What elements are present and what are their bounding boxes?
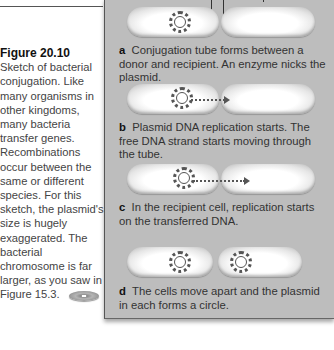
cell-pair xyxy=(127,84,317,114)
plasmid-icon xyxy=(173,167,195,189)
caption-text: Sketch of bacterial conjugation. Like ma… xyxy=(0,61,104,300)
cd-disc-icon[interactable] xyxy=(69,291,99,301)
recipient-cell xyxy=(221,7,315,37)
recipient-cell xyxy=(221,164,315,194)
header-rule xyxy=(0,6,103,7)
figure-caption: Figure 20.10 Sketch of bacterial conjuga… xyxy=(0,46,104,302)
cell-pair xyxy=(127,164,317,194)
recipient-cell xyxy=(221,84,315,114)
cell-pair xyxy=(127,247,317,277)
figure-panel: a Conjugation tube forms between a donor… xyxy=(104,0,334,319)
step-label: a Conjugation tube forms between a donor… xyxy=(119,44,329,85)
plasmid-icon xyxy=(171,87,193,109)
step-label: d The cells move apart and the plasmid i… xyxy=(119,285,329,312)
figure-label: Figure 20.10 xyxy=(0,46,104,60)
plasmid-icon xyxy=(169,11,191,33)
dna-strand-arrow xyxy=(193,180,245,182)
step-label: c In the recipient cell, replication sta… xyxy=(119,201,329,228)
plasmid-icon xyxy=(230,251,252,273)
step-label: b Plasmid DNA replication starts. The fr… xyxy=(119,121,329,162)
pointer-line xyxy=(263,0,264,2)
cell-pair xyxy=(127,7,317,37)
plasmid-icon xyxy=(169,251,191,273)
dna-strand-arrow xyxy=(191,99,225,101)
